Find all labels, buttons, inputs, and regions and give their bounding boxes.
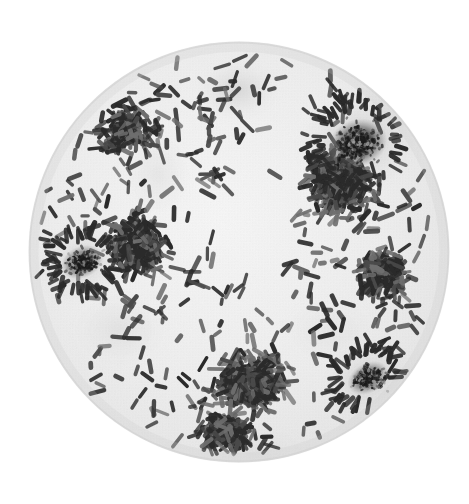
bacillus [206,246,209,261]
bacillus [316,143,325,148]
bacillus [312,391,316,402]
bacillus [116,138,121,155]
bacillus [127,91,138,95]
bacillus [363,228,380,234]
bacillus [126,180,130,195]
bacillus [88,361,93,371]
bacillus [276,353,281,364]
bacillus [393,309,397,322]
bacillus [164,138,169,150]
bacillus [351,348,355,360]
bacillus [364,343,369,357]
microscope-field-image [0,0,469,504]
bacillus [363,98,368,111]
bacillus [183,270,202,274]
colony-granule [352,148,357,151]
bacillus [172,205,177,222]
bacillus [330,210,341,215]
bacillus [207,367,226,371]
bacillus [98,347,102,357]
colony-granule [373,373,377,375]
bacillus [356,167,360,176]
bacillus [107,258,117,263]
bacillus [257,91,261,106]
bacillus [228,79,237,84]
bacillus [43,243,56,248]
bacillus [310,250,323,255]
bacillus [311,330,317,347]
colony-granule [355,120,358,125]
bacillus [125,336,142,340]
bacillus [94,132,103,136]
lower-left-shadow [72,292,168,368]
bacillus [207,124,211,136]
colony-granule [358,165,361,167]
bacillus [80,214,90,217]
colony-granule [383,380,385,384]
bacillus [76,228,80,244]
bacillus [246,333,250,345]
colony-granule [345,140,347,144]
bacillus [151,399,156,418]
bacillus [76,281,82,296]
bacillus [208,413,221,418]
bacillus [381,170,386,180]
bacillus [366,273,376,277]
photomicrograph-figure [0,0,469,504]
